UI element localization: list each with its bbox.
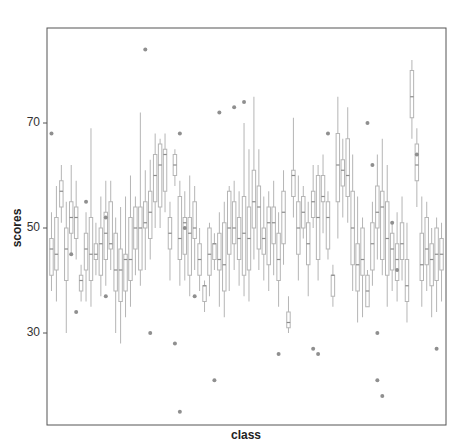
box bbox=[227, 191, 230, 254]
box bbox=[74, 207, 77, 239]
outlier-point bbox=[104, 294, 108, 298]
box bbox=[203, 286, 206, 302]
boxplot-chart bbox=[0, 0, 462, 441]
box bbox=[193, 202, 196, 239]
outlier-point bbox=[84, 200, 88, 204]
box bbox=[65, 228, 68, 281]
box bbox=[410, 71, 413, 118]
box bbox=[232, 202, 235, 244]
box bbox=[257, 186, 260, 249]
outlier-point bbox=[148, 331, 152, 335]
box bbox=[84, 233, 87, 270]
outlier-point bbox=[435, 347, 439, 351]
box bbox=[178, 197, 181, 260]
box bbox=[262, 228, 265, 254]
outlier-point bbox=[178, 410, 182, 414]
box bbox=[208, 228, 211, 275]
box bbox=[420, 233, 423, 280]
box bbox=[60, 181, 63, 207]
outlier-point bbox=[316, 352, 320, 356]
outlier-point bbox=[365, 121, 369, 125]
box bbox=[430, 244, 433, 286]
box bbox=[425, 218, 428, 265]
box bbox=[114, 233, 117, 291]
box bbox=[292, 170, 295, 196]
y-tick-label: 70 bbox=[10, 115, 40, 129]
outlier-point bbox=[375, 331, 379, 335]
outlier-point bbox=[193, 294, 197, 298]
outlier-point bbox=[277, 352, 281, 356]
box bbox=[99, 228, 102, 275]
box bbox=[361, 228, 364, 275]
box bbox=[346, 139, 349, 197]
box bbox=[326, 202, 329, 249]
box bbox=[390, 233, 393, 270]
outlier-point bbox=[104, 216, 108, 220]
box bbox=[153, 155, 156, 202]
outlier-point bbox=[49, 132, 53, 136]
outlier-point bbox=[415, 153, 419, 157]
box bbox=[287, 312, 290, 328]
outlier-point bbox=[183, 226, 187, 230]
outlier-point bbox=[217, 111, 221, 115]
box bbox=[267, 207, 270, 265]
box bbox=[252, 170, 255, 228]
outlier-point bbox=[395, 268, 399, 272]
box bbox=[218, 233, 221, 270]
y-axis-ticks bbox=[43, 123, 47, 333]
outlier-point bbox=[390, 221, 394, 225]
box-class-57 bbox=[326, 191, 329, 259]
box bbox=[55, 218, 58, 271]
box bbox=[213, 244, 216, 260]
outlier-point bbox=[173, 342, 177, 346]
outlier-point bbox=[232, 105, 236, 109]
box bbox=[376, 186, 379, 228]
outlier-point bbox=[74, 310, 78, 314]
outlier-point bbox=[69, 252, 73, 256]
box bbox=[158, 144, 161, 207]
box bbox=[415, 144, 418, 181]
box bbox=[50, 239, 53, 276]
outlier-point bbox=[311, 347, 315, 351]
outlier-point bbox=[143, 48, 147, 52]
box bbox=[371, 223, 374, 270]
box bbox=[242, 197, 245, 276]
box bbox=[163, 149, 166, 191]
box bbox=[400, 223, 403, 260]
y-tick-label: 50 bbox=[10, 220, 40, 234]
box bbox=[129, 218, 132, 281]
box bbox=[341, 160, 344, 186]
box bbox=[321, 176, 324, 202]
box bbox=[336, 134, 339, 202]
box bbox=[188, 218, 191, 276]
box bbox=[139, 207, 142, 270]
box bbox=[311, 191, 314, 217]
outlier-point bbox=[212, 378, 216, 382]
x-axis-label: class bbox=[231, 428, 261, 441]
box bbox=[282, 191, 285, 244]
box bbox=[89, 218, 92, 281]
box bbox=[331, 275, 334, 296]
outlier-point bbox=[380, 394, 384, 398]
box bbox=[109, 202, 112, 249]
outlier-point bbox=[242, 100, 246, 104]
box bbox=[405, 260, 408, 302]
box bbox=[79, 275, 82, 291]
box bbox=[119, 249, 122, 302]
box bbox=[395, 244, 398, 281]
outlier-point bbox=[326, 132, 330, 136]
box-class-65 bbox=[366, 270, 369, 307]
outlier-point bbox=[370, 163, 374, 167]
box bbox=[272, 207, 275, 244]
outlier-point bbox=[178, 132, 182, 136]
box bbox=[223, 223, 226, 291]
outlier-point bbox=[375, 378, 379, 382]
box bbox=[94, 244, 97, 260]
box bbox=[148, 191, 151, 238]
box bbox=[356, 244, 359, 291]
box bbox=[381, 191, 384, 259]
y-tick-label: 30 bbox=[10, 325, 40, 339]
box bbox=[144, 202, 147, 228]
box bbox=[277, 233, 280, 280]
